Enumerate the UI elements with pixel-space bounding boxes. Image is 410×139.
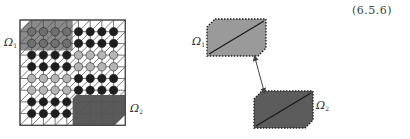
grid-node-dark (39, 98, 47, 106)
grid-node-dark (63, 98, 71, 106)
grid-node-dark (39, 109, 47, 117)
grid-node-dark (39, 63, 47, 71)
grid-node-light (51, 86, 59, 94)
block-label-omega1: Ω1 (192, 36, 205, 48)
grid-node-light (39, 86, 47, 94)
grid-node-dark (109, 28, 117, 36)
grid-node-dark (86, 86, 94, 94)
subdomain-coupling-diagram (207, 19, 313, 128)
grid-node-mid (28, 28, 36, 36)
figure: Ω1 Ω2 Ω1 Ω2 (6.5.6) (0, 0, 410, 139)
grid-node-light (109, 51, 117, 59)
grid-node-dark (28, 51, 36, 59)
equation-number: (6.5.6) (352, 4, 392, 17)
grid-node-dark (74, 39, 82, 47)
grid-node-dark (63, 109, 71, 117)
grid-node-light (98, 63, 106, 71)
grid-node-dark (98, 39, 106, 47)
grid-node-light (63, 86, 71, 94)
figure-canvas (0, 0, 410, 139)
grid-node-dark (39, 51, 47, 59)
grid-node-dark (28, 63, 36, 71)
grid-node-dark (28, 98, 36, 106)
grid-node-mid (63, 28, 71, 36)
coupling-double-arrow (255, 58, 264, 91)
grid-node-mid (28, 39, 36, 47)
block-label-omega2: Ω2 (316, 100, 329, 112)
grid-node-dark (98, 74, 106, 82)
grid-node-light (98, 51, 106, 59)
grid-node-light (109, 63, 117, 71)
grid-node-dark (109, 74, 117, 82)
grid-node-dark (74, 74, 82, 82)
grid-node-dark (86, 39, 94, 47)
grid-node-dark (51, 63, 59, 71)
grid-node-light (28, 74, 36, 82)
grid-node-dark (51, 98, 59, 106)
grid-node-dark (86, 28, 94, 36)
grid-node-light (28, 86, 36, 94)
grid-node-mid (51, 39, 59, 47)
grid-label-omega1: Ω1 (4, 37, 17, 49)
grid-node-dark (51, 109, 59, 117)
grid-node-dark (74, 86, 82, 94)
grid-node-mid (39, 28, 47, 36)
grid-node-mid (39, 39, 47, 47)
grid-node-dark (74, 28, 82, 36)
grid-node-light (51, 74, 59, 82)
grid-node-dark (51, 51, 59, 59)
grid-node-dark (98, 28, 106, 36)
grid-node-light (86, 63, 94, 71)
grid-node-dark (63, 63, 71, 71)
grid-label-omega2: Ω2 (130, 103, 143, 115)
grid-node-mid (51, 28, 59, 36)
grid-node-light (74, 63, 82, 71)
grid-node-dark (98, 86, 106, 94)
grid-node-light (86, 51, 94, 59)
grid-node-mid (63, 39, 71, 47)
grid-node-dark (109, 39, 117, 47)
grid-node-light (63, 74, 71, 82)
grid-node-dark (63, 51, 71, 59)
grid-node-dark (28, 109, 36, 117)
domain-decomposition-grid (20, 20, 125, 125)
grid-node-light (39, 74, 47, 82)
grid-node-dark (86, 74, 94, 82)
grid-node-dark (109, 86, 117, 94)
grid-node-light (74, 51, 82, 59)
